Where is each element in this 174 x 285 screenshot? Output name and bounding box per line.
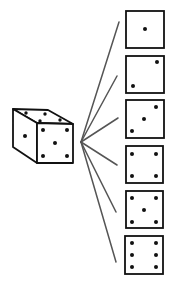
die-faces	[125, 11, 164, 274]
die-outcomes-diagram	[0, 0, 174, 285]
fan-lines	[81, 22, 119, 262]
fan-line-3	[81, 118, 118, 142]
